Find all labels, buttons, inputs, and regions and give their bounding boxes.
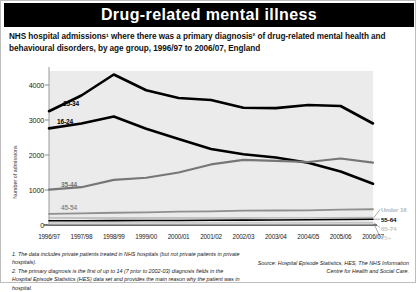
series-label-65-74: 65-74 xyxy=(381,225,396,232)
chart-title-bar: Drug-related mental illness xyxy=(4,3,414,27)
x-tick-label: 2001/02 xyxy=(200,233,222,240)
series-label-55-64: 55-64 xyxy=(381,216,396,223)
series-label-35-44: 35-44 xyxy=(61,181,77,188)
x-tick-label: 1998/99 xyxy=(103,233,125,240)
series-label-25-34: 25-34 xyxy=(63,100,79,107)
footnote: 1. The data includes private patients tr… xyxy=(12,250,242,267)
series-label-75+: 75+ xyxy=(381,234,391,241)
x-tick-label: 1997/98 xyxy=(71,233,93,240)
page-title: Drug-related mental illness xyxy=(101,7,317,23)
line-chart-svg xyxy=(1,61,416,246)
x-tick-label: 1999/00 xyxy=(135,233,157,240)
leader-line xyxy=(374,209,380,217)
source-note: Source: Hospital Episode Statistics, HES… xyxy=(253,259,409,276)
x-tick-label: 2002/03 xyxy=(233,233,255,240)
series-line-under-16 xyxy=(49,217,373,218)
footnotes: 1. The data includes private patients tr… xyxy=(12,250,242,292)
x-tick-label: 2003/04 xyxy=(265,233,287,240)
x-tick-label: 1996/97 xyxy=(38,233,60,240)
x-axis-ticks: 1996/971997/981998/991999/002000/012001/… xyxy=(1,231,416,245)
series-label-16-24: 16-24 xyxy=(57,118,73,125)
x-tick-label: 2000/01 xyxy=(168,233,190,240)
x-tick-label: 2005/06 xyxy=(330,233,352,240)
series-label-45-54: 45-54 xyxy=(61,204,77,211)
series-label-under-16: Under 16 xyxy=(381,206,407,213)
footnote: 2. The primary diagnosis is the first of… xyxy=(12,267,242,292)
plot-area: Number of admissions 01000200030004000 1… xyxy=(1,61,416,246)
x-tick-label: 2004/05 xyxy=(297,233,319,240)
chart-subtitle: NHS hospital admissions¹ where there was… xyxy=(9,31,407,55)
